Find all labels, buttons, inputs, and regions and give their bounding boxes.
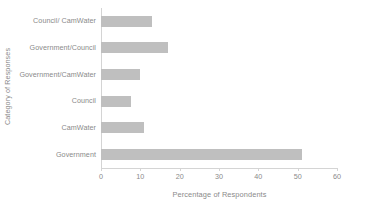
bar	[101, 69, 140, 80]
x-axis-tick-mark	[101, 168, 102, 171]
x-axis-tick-mark	[258, 168, 259, 171]
bar-row	[101, 88, 131, 115]
bar	[101, 149, 302, 160]
y-axis-tick-label: CamWater	[62, 122, 96, 134]
x-axis-tick-mark	[140, 168, 141, 171]
plot-area	[101, 8, 337, 168]
bar-row	[101, 115, 144, 142]
y-axis-tick-label: Council/ CamWater	[33, 15, 96, 27]
x-axis-tick-label: 10	[125, 172, 155, 181]
bar	[101, 16, 152, 27]
x-axis-tick-mark	[219, 168, 220, 171]
y-axis-tick-labels: GovernmentCamWaterCouncilGovernment/CamW…	[14, 8, 99, 168]
y-axis-tick-label: Government/Council	[30, 42, 96, 54]
y-axis-tick-label: Government	[56, 149, 96, 161]
x-axis-tick-mark	[337, 168, 338, 171]
x-axis-tick-mark	[180, 168, 181, 171]
x-axis-tick-label: 0	[86, 172, 116, 181]
x-axis-tick-label: 20	[165, 172, 195, 181]
x-axis-tick-label: 30	[204, 172, 234, 181]
bar-row	[101, 8, 152, 35]
bar-row	[101, 61, 140, 88]
bar-row	[101, 35, 168, 62]
y-axis-title-text: Category of Responses	[4, 47, 13, 124]
x-axis-tick-label: 50	[283, 172, 313, 181]
y-axis-tick-label: Government/CamWater	[19, 69, 96, 81]
x-axis-ticks: 0102030405060	[101, 168, 338, 182]
bar-row	[101, 141, 302, 168]
bar	[101, 122, 144, 133]
y-axis-tick-label: Council	[72, 95, 96, 107]
x-axis-tick-label: 40	[243, 172, 273, 181]
x-axis-tick-mark	[298, 168, 299, 171]
x-axis-title: Percentage of Respondents	[101, 190, 338, 199]
x-axis-tick-label: 60	[322, 172, 352, 181]
bar	[101, 42, 168, 53]
bar-chart: Category of Responses GovernmentCamWater…	[0, 0, 370, 216]
bar	[101, 96, 131, 107]
